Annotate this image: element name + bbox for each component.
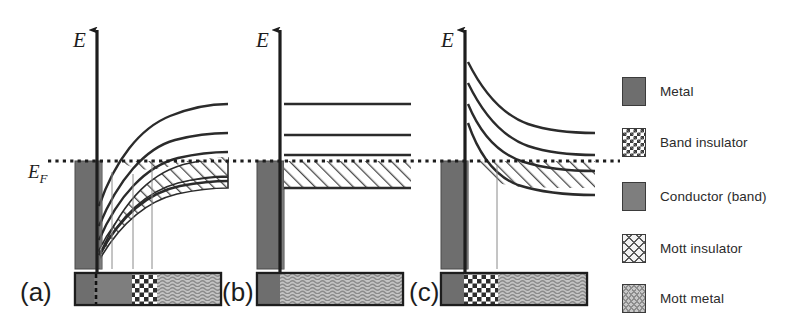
panel-c-label: (c) bbox=[409, 277, 439, 308]
panel-a-upper-hatched-band bbox=[100, 158, 228, 254]
panel-a-phase-mott-metal bbox=[157, 274, 220, 304]
legend-item-conductor: Conductor (band) bbox=[622, 181, 767, 211]
panel-b-label: (b) bbox=[222, 277, 254, 308]
panel-c bbox=[441, 30, 595, 305]
mott-metal-swatch-icon bbox=[622, 284, 646, 313]
fermi-level-label: EF bbox=[28, 161, 48, 187]
panel-b-phase-mott-metal bbox=[280, 274, 402, 304]
panel-c-phase-band-insulator bbox=[464, 274, 498, 304]
legend-label-mott-metal: Mott metal bbox=[660, 291, 724, 306]
legend-label-mott-insulator: Mott insulator bbox=[660, 241, 742, 256]
panel-c-phase-bar bbox=[441, 273, 587, 305]
panel-a bbox=[75, 30, 228, 305]
legend-item-mott-metal: Mott metal bbox=[622, 283, 724, 313]
legend-item-band-insulator: Band insulator bbox=[622, 127, 748, 157]
panel-c-phase-metal bbox=[442, 274, 464, 304]
mott-insulator-swatch-icon bbox=[622, 234, 646, 263]
legend-item-mott-insulator: Mott insulator bbox=[622, 233, 742, 263]
panel-a-phase-band-insulator bbox=[132, 274, 157, 304]
fermi-level-label-sub: F bbox=[40, 171, 48, 186]
panel-a-phase-bar bbox=[75, 273, 221, 305]
panel-b bbox=[257, 30, 411, 305]
metal-swatch-icon bbox=[622, 77, 646, 106]
panel-b-axis-label: E bbox=[256, 28, 269, 53]
panel-a-phase-metal bbox=[76, 274, 94, 304]
conductor-swatch-icon bbox=[622, 182, 646, 211]
panel-b-phase-metal bbox=[258, 274, 280, 304]
panel-b-phase-bar bbox=[257, 273, 403, 305]
legend: Metal Band insulator Conductor (band) Mo… bbox=[622, 70, 796, 320]
legend-label-conductor: Conductor (band) bbox=[660, 189, 767, 204]
panel-c-axis-label: E bbox=[441, 28, 454, 53]
panel-a-label: (a) bbox=[20, 277, 52, 308]
fermi-level-label-main: E bbox=[28, 161, 40, 182]
panel-b-hatched-band bbox=[284, 161, 411, 188]
legend-label-metal: Metal bbox=[660, 84, 694, 99]
legend-item-metal: Metal bbox=[622, 76, 694, 106]
panel-a-phase-conductor bbox=[94, 274, 132, 304]
band-insulator-swatch-icon bbox=[622, 128, 646, 157]
panel-c-phase-mott-metal bbox=[498, 274, 586, 304]
legend-label-band-insulator: Band insulator bbox=[660, 135, 748, 150]
panel-a-axis-label: E bbox=[73, 28, 86, 53]
panel-c-band-curve-1 bbox=[468, 62, 595, 133]
